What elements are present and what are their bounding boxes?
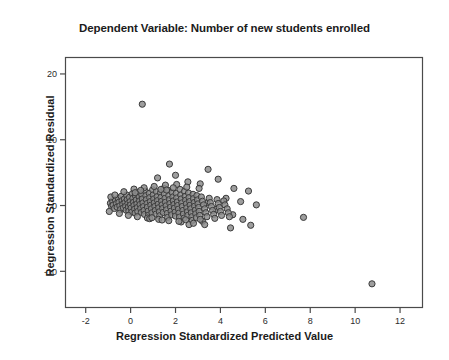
data-point [197, 216, 203, 222]
data-point [227, 225, 233, 231]
data-point [139, 101, 145, 107]
data-point [166, 218, 172, 224]
data-point [176, 218, 182, 224]
x-tick-label: 6 [263, 316, 268, 326]
y-tick-label: -10 [44, 267, 57, 277]
data-point [190, 220, 196, 226]
data-point [204, 214, 210, 220]
data-point [134, 214, 140, 220]
data-point [300, 214, 306, 220]
data-point [218, 212, 224, 218]
x-tick-label: 0 [128, 316, 133, 326]
data-point [121, 189, 127, 195]
x-tick-label: -2 [82, 316, 90, 326]
data-point [159, 217, 165, 223]
data-point [184, 184, 190, 190]
data-point [205, 166, 211, 172]
plot-canvas: -2024681012 20100-10 [0, 0, 449, 360]
scatter-plot-figure: Dependent Variable: Number of new studen… [0, 0, 449, 360]
x-tick-label: 12 [395, 316, 405, 326]
data-point [196, 185, 202, 191]
data-point [158, 186, 164, 192]
data-point [166, 161, 172, 167]
data-points [106, 101, 375, 287]
data-point [170, 185, 176, 191]
y-tick-label: 20 [47, 69, 57, 79]
data-point [116, 210, 122, 216]
data-point [253, 202, 259, 208]
data-point [248, 222, 254, 228]
data-point [106, 208, 112, 214]
x-tick-label: 4 [218, 316, 223, 326]
data-point [215, 176, 221, 182]
y-axis-ticks: 20100-10 [44, 69, 66, 276]
x-tick-label: 10 [350, 316, 360, 326]
data-point [202, 222, 208, 228]
data-point [238, 198, 244, 204]
data-point [154, 175, 160, 181]
x-axis-ticks: -2024681012 [82, 308, 405, 327]
data-point [172, 172, 178, 178]
data-point [240, 216, 246, 222]
data-point [183, 217, 189, 223]
data-point [112, 192, 118, 198]
plot-frame [66, 58, 423, 308]
y-tick-label: 0 [52, 201, 57, 211]
data-point [149, 215, 155, 221]
data-point [212, 215, 218, 221]
data-point [369, 281, 375, 287]
x-tick-label: 2 [173, 316, 178, 326]
data-point [125, 212, 131, 218]
y-tick-label: 10 [47, 135, 57, 145]
data-point [151, 183, 157, 189]
x-tick-label: 8 [308, 316, 313, 326]
data-point [245, 188, 251, 194]
data-point [132, 190, 138, 196]
data-point [231, 185, 237, 191]
data-point [226, 214, 232, 220]
